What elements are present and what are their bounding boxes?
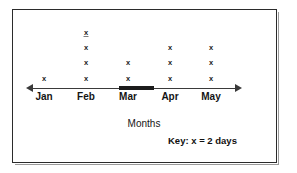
data-mark-feb: x xyxy=(84,59,88,67)
data-mark-feb: x xyxy=(84,75,88,83)
x-axis-highlighted-segment xyxy=(119,86,154,89)
chart-key-legend: Key: x = 2 days xyxy=(168,135,237,146)
data-mark-feb: x xyxy=(84,44,88,52)
data-mark-mar: x xyxy=(126,75,130,83)
axis-arrow-left-icon xyxy=(26,84,33,92)
data-mark-jan: x xyxy=(42,75,46,83)
x-axis-title: Months xyxy=(128,118,161,129)
data-mark-apr: x xyxy=(168,75,172,83)
x-tick-label-feb: Feb xyxy=(77,91,95,102)
x-tick-label-may: May xyxy=(201,91,220,102)
data-mark-apr: x xyxy=(168,44,172,52)
data-mark-may: x xyxy=(209,59,213,67)
axis-arrow-right-icon xyxy=(235,84,242,92)
x-tick-label-jan: Jan xyxy=(35,91,52,102)
data-mark-apr: x xyxy=(168,59,172,67)
data-mark-may: x xyxy=(209,44,213,52)
x-tick-label-mar: Mar xyxy=(119,91,137,102)
x-tick-label-apr: Apr xyxy=(161,91,178,102)
data-mark-may: x xyxy=(209,75,213,83)
chart-figure: xxxxxxxxxxxxx JanFebMarAprMay Months Key… xyxy=(0,0,297,173)
plot-area: xxxxxxxxxxxxx JanFebMarAprMay Months Key… xyxy=(0,0,297,173)
data-mark-mar: x xyxy=(126,59,130,67)
feb-underline-artifact xyxy=(84,36,89,37)
